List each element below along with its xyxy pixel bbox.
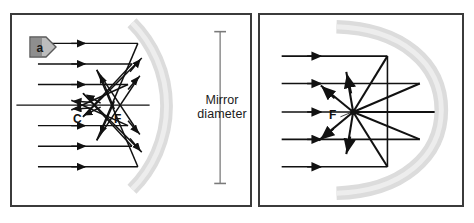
panel-b-parabolic-mirror: b [258, 13, 464, 207]
incoming-ray-arrowheads-b [307, 56, 321, 167]
label-focal-point-a: F [114, 112, 121, 126]
panel-label-badge-a: a [28, 35, 58, 59]
figure-canvas: a [0, 0, 474, 223]
focal-point-dot-b [350, 109, 356, 115]
mirror-diameter-line-2: diameter [188, 107, 256, 121]
mirror-diameter-label: Mirror diameter [188, 93, 256, 121]
center-of-curvature-dot [77, 103, 81, 107]
panel-b-diagram [260, 15, 462, 205]
badge-a-letter: a [37, 41, 44, 55]
label-focal-point-b: F [329, 108, 336, 122]
mirror-diameter-line-1: Mirror [188, 93, 256, 107]
label-center-of-curvature: C [73, 112, 82, 126]
